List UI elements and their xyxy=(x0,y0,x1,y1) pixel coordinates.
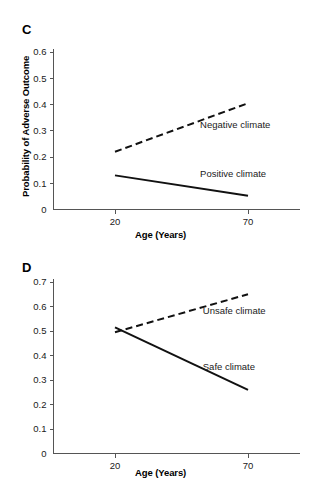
y-tick-label: 0.2 xyxy=(33,399,46,410)
x-tick-label: 20 xyxy=(110,460,121,471)
y-tick-label: 0.1 xyxy=(33,178,46,189)
x-tick-label: 20 xyxy=(110,216,121,227)
y-tick-label: 0.3 xyxy=(33,125,46,136)
y-tick-label: 0.3 xyxy=(33,374,46,385)
y-tick-label: 0.2 xyxy=(33,151,46,162)
y-tick-label: 0.4 xyxy=(33,99,46,110)
panel-c: C Probability of Adverse Outcome Age (Ye… xyxy=(0,0,325,248)
y-tick-label: 0.4 xyxy=(33,350,46,361)
series-label-negative-climate: Negative climate xyxy=(200,119,270,130)
series-label-safe-climate: Safe climate xyxy=(203,361,255,372)
y-tick-label: 0 xyxy=(41,204,46,215)
x-tick-label: 70 xyxy=(243,460,254,471)
y-tick-label: 0.5 xyxy=(33,73,46,84)
y-tick-label: 0 xyxy=(41,448,46,459)
y-tick-label: 0.1 xyxy=(33,423,46,434)
series-line-safe-climate xyxy=(115,327,248,389)
chart-c: 00.10.20.30.40.50.62070Negative climateP… xyxy=(0,0,325,248)
y-tick-label: 0.6 xyxy=(33,46,46,57)
series-label-unsafe-climate: Unsafe climate xyxy=(203,305,266,316)
chart-d: 00.10.20.30.40.50.60.72070Unsafe climate… xyxy=(0,245,325,493)
y-tick-label: 0.5 xyxy=(33,325,46,336)
series-label-positive-climate: Positive climate xyxy=(200,168,266,179)
y-tick-label: 0.7 xyxy=(33,276,46,287)
panel-d: D Probability of Adverse Outcome Age (Ye… xyxy=(0,245,325,493)
y-tick-label: 0.6 xyxy=(33,301,46,312)
x-tick-label: 70 xyxy=(243,216,254,227)
